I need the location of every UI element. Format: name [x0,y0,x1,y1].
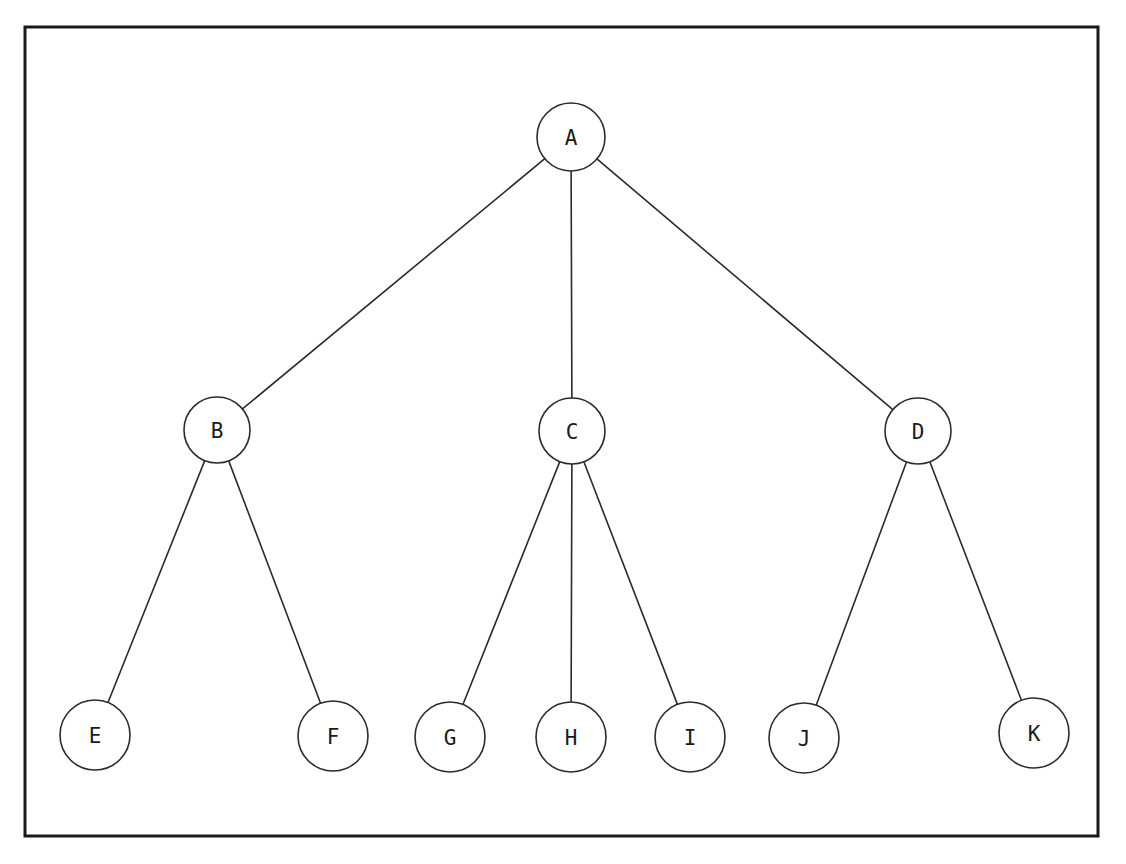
tree-node-d[interactable]: D [885,398,951,464]
tree-edge-b-f [229,461,321,703]
node-label-b: B [211,419,224,443]
tree-node-g[interactable]: G [415,702,485,772]
tree-node-e[interactable]: E [60,700,130,770]
node-label-d: D [912,420,925,444]
tree-node-c[interactable]: C [539,398,605,464]
tree-edge-c-g [463,462,560,705]
tree-edge-d-k [930,462,1022,701]
node-label-i: I [684,726,697,750]
node-label-f: F [327,725,340,749]
node-group: ABCDEFGHIJK [60,103,1069,773]
tree-diagram-svg: ABCDEFGHIJK [0,0,1126,864]
tree-node-i[interactable]: I [655,702,725,772]
node-label-g: G [444,726,457,750]
node-label-c: C [566,420,579,444]
node-label-e: E [89,724,102,748]
tree-edge-c-i [584,462,678,705]
node-label-h: H [565,726,578,750]
tree-node-a[interactable]: A [537,103,605,171]
tree-edge-c-h [571,464,572,702]
tree-edge-b-e [108,461,205,703]
tree-edge-a-d [597,159,893,410]
tree-node-f[interactable]: F [298,701,368,771]
tree-node-j[interactable]: J [769,703,839,773]
tree-node-b[interactable]: B [184,397,250,463]
node-label-k: K [1028,722,1041,746]
tree-node-k[interactable]: K [999,698,1069,768]
tree-edge-d-j [816,462,906,705]
diagram-canvas: ABCDEFGHIJK [0,0,1126,864]
node-label-a: A [565,126,578,150]
tree-edge-a-c [571,171,572,398]
tree-node-h[interactable]: H [536,702,606,772]
node-label-j: J [798,727,811,751]
tree-edge-a-b [242,159,544,409]
